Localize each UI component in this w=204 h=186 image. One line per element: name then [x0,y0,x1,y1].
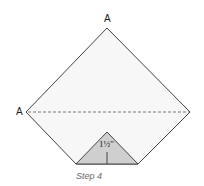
measurement-label: 1½" [99,139,114,149]
label-left-a: A [16,106,23,117]
diagram-canvas: A A 1½" Step 4 [0,0,204,186]
folded-square-shape [0,0,204,186]
label-top-a: A [104,13,111,24]
step-caption: Step 4 [76,171,102,181]
